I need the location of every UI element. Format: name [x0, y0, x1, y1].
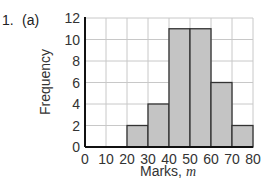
histogram-bar: [148, 104, 169, 147]
histogram-bar: [232, 126, 253, 148]
y-axis-label: Frequency: [37, 49, 53, 115]
histogram-bars: [127, 29, 253, 147]
histogram-bar: [190, 29, 211, 147]
x-axis-variable: m: [186, 164, 196, 179]
y-tick-label: 6: [72, 75, 80, 91]
histogram-bar: [127, 126, 148, 148]
y-axis-ticks: 024681012: [64, 10, 80, 155]
histogram-bar: [211, 83, 232, 148]
y-tick-label: 8: [72, 53, 80, 69]
histogram-chart: 024681012 01020304050607080 Frequency Ma…: [0, 0, 261, 182]
x-tick-label: 20: [119, 151, 135, 167]
y-tick-label: 0: [72, 139, 80, 155]
y-tick-label: 12: [64, 10, 80, 26]
x-tick-label: 0: [81, 151, 89, 167]
x-tick-label: 60: [203, 151, 219, 167]
y-tick-label: 2: [72, 118, 80, 134]
histogram-bar: [169, 29, 190, 147]
x-tick-label: 70: [224, 151, 240, 167]
x-tick-label: 10: [98, 151, 114, 167]
x-tick-label: 80: [245, 151, 261, 167]
x-axis-label: Marks, m: [140, 163, 196, 179]
y-tick-label: 10: [64, 32, 80, 48]
y-tick-label: 4: [72, 96, 80, 112]
